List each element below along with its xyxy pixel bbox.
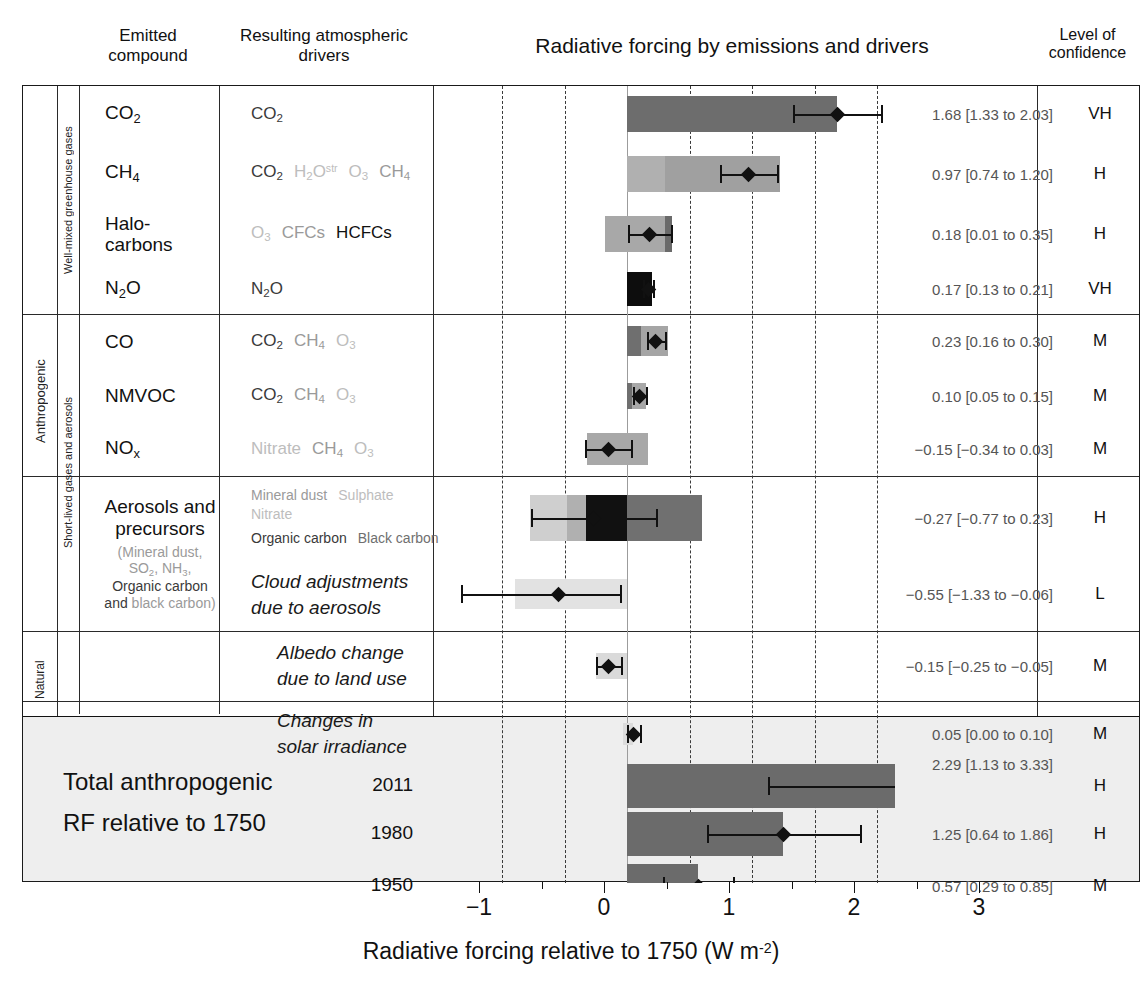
- driver-token-nitrate: Nitrate: [251, 438, 301, 461]
- error-bar-cap: [596, 657, 598, 675]
- value-text-2011: 2.29 [1.13 to 3.33]: [895, 752, 1059, 776]
- header-emitted-line2: compound: [78, 46, 218, 66]
- axis-tick--1: [479, 882, 480, 893]
- error-bar-cap: [621, 657, 623, 675]
- year-label-2011: 2011: [293, 774, 413, 796]
- axis-tick-label--1: −1: [449, 894, 509, 921]
- emit-cell-aerosols: Aerosols andprecursors (Mineral dust, SO…: [79, 476, 241, 631]
- side-label-slga: Short-lived gases and aerosols: [57, 314, 79, 631]
- confidence-cloud-adjustments-due-to-aerosols: L: [1059, 581, 1141, 607]
- drivers-cell-albedo: Albedo change due to land use: [241, 631, 455, 701]
- axis-tick-label-3: 3: [949, 894, 1009, 921]
- error-bar-cap: [671, 225, 673, 243]
- drivers-cell-nmvoc: CO2CH4O3: [241, 369, 455, 423]
- value-text-co2: 1.68 [1.33 to 2.03]: [895, 102, 1059, 126]
- drivers-cell-solar: Changes in solar irradiance: [241, 701, 455, 767]
- confidence-1980: H: [1059, 821, 1141, 847]
- driver-token-co2: CO2: [251, 161, 283, 185]
- side-label-wmgg: Well-mixed greenhouse gases: [57, 86, 79, 314]
- emit-cell-n2o: N2O: [79, 265, 241, 314]
- confidence-aerosols-and-precursors: H: [1059, 505, 1141, 531]
- value-text-n2o: 0.17 [0.13 to 0.21]: [895, 277, 1059, 301]
- x-axis-title-sup: -2: [759, 940, 772, 956]
- value-text-nmvoc: 0.10 [0.05 to 0.15]: [895, 384, 1059, 408]
- error-bar-cap: [733, 877, 735, 883]
- solar-text-l2: solar irradiance: [277, 734, 407, 760]
- driver-token-ch4: CH4: [379, 161, 410, 185]
- error-bar-cap: [720, 165, 722, 183]
- driver-token-o3: O3: [354, 438, 374, 462]
- axis-tick-3: [979, 882, 980, 893]
- value-text-changes-in-solar-irradiance: 0.05 [0.00 to 0.10]: [895, 722, 1059, 746]
- header-resulting-drivers: Resulting atmospheric drivers: [218, 26, 430, 65]
- side-label-natural: Natural: [23, 644, 57, 716]
- solar-text-l1: Changes in: [277, 708, 373, 734]
- confidence-nmvoc: M: [1059, 383, 1141, 409]
- error-bar-cap: [860, 825, 862, 843]
- axis-tick-label-2: 2: [824, 894, 884, 921]
- page-title: Radiative forcing by emissions and drive…: [432, 34, 1032, 58]
- error-bar-cap: [665, 332, 667, 350]
- aerosol-sub-l1: (Mineral dust,: [118, 544, 203, 560]
- drivers-cell-nox: NitrateCH4O3: [241, 423, 455, 476]
- axis-minor-tick: [917, 882, 918, 889]
- value-text-ch4: 0.97 [0.74 to 1.20]: [895, 162, 1059, 186]
- emit-label-nox: NOx: [105, 437, 140, 461]
- header-conf-line1: Level of: [1035, 26, 1140, 44]
- aerosol-sub-l3: Organic carbon: [112, 578, 208, 594]
- cloud-text-l2: due to aerosols: [251, 595, 381, 621]
- confidence-albedo-change-due-to-land-use: M: [1059, 653, 1141, 679]
- error-bar-cap: [777, 165, 779, 183]
- header-drivers-line2: drivers: [218, 46, 430, 66]
- driver-token-n2o: N2O: [251, 278, 283, 302]
- aerosol-sub-l2: SO2, NH3,: [129, 560, 192, 576]
- confidence-co: M: [1059, 328, 1141, 354]
- driver-token-h2o-str: H2Ostr: [294, 161, 338, 185]
- cloud-text-l1: Cloud adjustments: [251, 569, 408, 595]
- confidence-ch4: H: [1059, 161, 1141, 187]
- emit-label-n2o: N2O: [105, 277, 141, 301]
- driver-token-o3: O3: [349, 161, 369, 185]
- emit-cell-halocarbons: Halo-carbons: [79, 203, 241, 265]
- axis-minor-tick: [542, 882, 543, 889]
- error-bar-cap: [793, 105, 795, 123]
- confidence-nox: M: [1059, 436, 1141, 462]
- header-level-of-confidence: Level of confidence: [1035, 26, 1140, 63]
- drivers-cell-co2: CO2: [241, 86, 455, 143]
- confidence-halocarbons: H: [1059, 221, 1141, 247]
- confidence-changes-in-solar-irradiance: M: [1059, 721, 1141, 747]
- driver-token-black-carbon: Black carbon: [358, 529, 439, 548]
- driver-token-o3: O3: [336, 384, 356, 408]
- axis-tick-2: [854, 882, 855, 893]
- bar-segment: [627, 326, 641, 356]
- error-bar-cap: [461, 585, 463, 603]
- chart-table-frame: Anthropogenic Natural Well-mixed greenho…: [22, 85, 1140, 882]
- x-axis-title-text: Radiative forcing relative to 1750 (W m: [363, 938, 759, 964]
- driver-token-organic-carbon: Organic carbon: [251, 529, 347, 548]
- plot-area: [455, 86, 895, 883]
- drivers-cell-cloud: Cloud adjustments due to aerosols: [241, 558, 455, 631]
- error-bar-cap: [631, 440, 633, 458]
- driver-token-nitrate: Nitrate: [251, 505, 292, 524]
- drivers-cell-co: CO2CH4O3: [241, 314, 455, 369]
- header-emitted-compound: Emitted compound: [78, 26, 218, 65]
- error-bar-cap: [656, 509, 658, 527]
- error-bar-cap: [768, 777, 770, 795]
- bar-segment: [627, 156, 665, 192]
- driver-token-mineral-dust: Mineral dust: [251, 486, 327, 505]
- driver-token-hcfcs: HCFCs: [336, 222, 392, 245]
- error-bar-cap: [585, 440, 587, 458]
- error-bar-cap: [881, 105, 883, 123]
- gridline-neg0_5: [565, 86, 566, 883]
- emit-cell-nmvoc: NMVOC: [79, 369, 241, 423]
- driver-token-co2: CO2: [251, 384, 283, 408]
- error-bar-cap: [531, 509, 533, 527]
- aerosol-sub-l4: and black carbon): [104, 595, 215, 611]
- value-text-halocarbons: 0.18 [0.01 to 0.35]: [895, 222, 1059, 246]
- driver-token-ch4: CH4: [294, 384, 325, 408]
- error-bar-cap: [620, 585, 622, 603]
- axis-tick-label-0: 0: [574, 894, 634, 921]
- driver-token-o3: O3: [336, 330, 356, 354]
- driver-token-cfcs: CFCs: [282, 222, 325, 245]
- axis-tick-label-1: 1: [699, 894, 759, 921]
